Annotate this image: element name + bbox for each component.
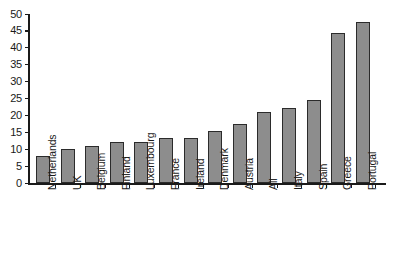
x-axis-line	[28, 183, 386, 185]
x-tick-label: Luxembourg	[145, 133, 156, 190]
x-tick-label: Netherlands	[47, 134, 58, 190]
plot-area: 05101520253035404550 NetherlandsUKBelgiu…	[0, 0, 404, 259]
x-tick-label: Greece	[342, 156, 353, 190]
x-tick-label: Italy	[293, 171, 304, 190]
y-axis-line	[28, 14, 30, 184]
y-tick-label: 5	[0, 161, 22, 172]
x-tick-label: Finland	[121, 156, 132, 190]
y-tick-label: 25	[0, 93, 22, 104]
y-tick-label: 30	[0, 76, 22, 87]
bar	[257, 112, 271, 183]
y-tick-label: 45	[0, 25, 22, 36]
x-tick-label: Ireland	[195, 159, 206, 190]
y-tick-label: 10	[0, 144, 22, 155]
y-axis: 05101520253035404550	[0, 0, 28, 259]
x-tick-label: Austria	[244, 158, 255, 190]
y-tick-label: 15	[0, 127, 22, 138]
x-tick-label: Spain	[318, 164, 329, 190]
y-tick-label: 40	[0, 42, 22, 53]
x-tick-label: France	[170, 158, 181, 190]
y-tick-label: 20	[0, 110, 22, 121]
y-tick-label: 35	[0, 59, 22, 70]
y-tick-label: 0	[0, 178, 22, 189]
bar-chart: 05101520253035404550 NetherlandsUKBelgiu…	[0, 0, 404, 259]
y-tick-label: 50	[0, 9, 22, 20]
